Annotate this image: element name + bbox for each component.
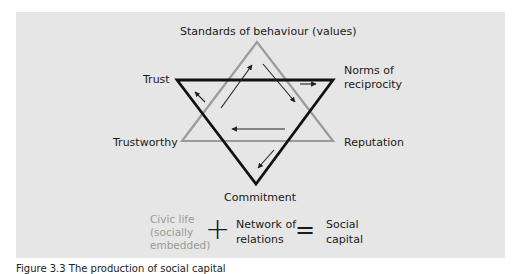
black-triangle [177, 80, 333, 184]
network-line2: relations [236, 233, 284, 247]
figure-caption: Figure 3.3 The production of social capi… [16, 263, 226, 274]
social-capital-line1: Social [326, 218, 359, 232]
plus-sign: + [205, 214, 230, 244]
civic-life-line1: Civic life [150, 213, 194, 226]
civic-life-line3: embedded) [150, 239, 210, 252]
label-trust: Trust [143, 73, 170, 87]
label-standards: Standards of behaviour (values) [180, 25, 356, 39]
equals-sign: = [295, 217, 315, 243]
label-norms-2: reciprocity [344, 78, 402, 92]
arrow [258, 150, 274, 168]
social-capital-line2: capital [326, 233, 363, 247]
network-line1: Network of [236, 218, 296, 232]
grey-triangle [182, 42, 333, 141]
label-trustworthy: Trustworthy [113, 136, 178, 150]
arrow [195, 92, 205, 102]
civic-life-line2: (socially [150, 226, 193, 239]
arrow [221, 65, 252, 108]
label-commitment: Commitment [224, 191, 296, 205]
label-norms-1: Norms of [344, 64, 394, 78]
label-reputation: Reputation [344, 136, 404, 150]
